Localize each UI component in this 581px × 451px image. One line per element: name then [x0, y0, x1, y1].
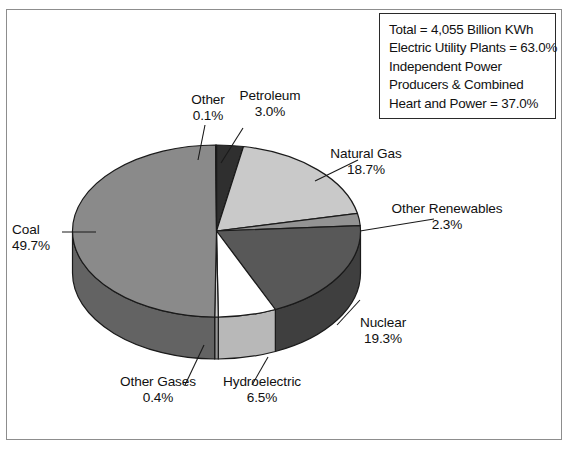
callout-coal-name: Coal	[12, 222, 68, 238]
callout-hydroelectric: Hydroelectric 6.5%	[214, 374, 310, 407]
callout-hydroelectric-name: Hydroelectric	[214, 374, 310, 390]
callout-other-gases-value: 0.4%	[110, 390, 206, 406]
callout-petroleum-name: Petroleum	[230, 88, 310, 104]
callout-hydroelectric-value: 6.5%	[214, 390, 310, 406]
callout-other-value: 0.1%	[178, 108, 238, 124]
legend-line-total: Total = 4,055 Billion KWh	[389, 21, 555, 39]
legend-line-indep: Independent Power	[389, 58, 555, 76]
callout-natural-gas-name: Natural Gas	[312, 146, 420, 162]
legend-line-utility: Electric Utility Plants = 63.0%	[389, 39, 555, 57]
callout-petroleum-value: 3.0%	[230, 104, 310, 120]
callout-other-renewables-value: 2.3%	[372, 217, 522, 233]
callout-coal-value: 49.7%	[12, 238, 68, 254]
callout-natural-gas-value: 18.7%	[312, 162, 420, 178]
callout-other-name: Other	[178, 92, 238, 108]
callout-coal: Coal 49.7%	[12, 222, 68, 255]
summary-legend-box: Total = 4,055 Billion KWh Electric Utili…	[379, 13, 556, 119]
callout-nuclear-name: Nuclear	[344, 315, 422, 331]
callout-natural-gas: Natural Gas 18.7%	[312, 146, 420, 179]
callout-nuclear-value: 19.3%	[344, 331, 422, 347]
chart-canvas: Other 0.1% Petroleum 3.0% Natural Gas 18…	[0, 0, 581, 451]
callout-other-renewables-name: Other Renewables	[372, 201, 522, 217]
callout-other-gases-name: Other Gases	[110, 374, 206, 390]
callout-nuclear: Nuclear 19.3%	[344, 315, 422, 348]
legend-line-heatpower: Heart and Power = 37.0%	[389, 95, 555, 113]
callout-other: Other 0.1%	[178, 92, 238, 125]
legend-line-producers: Producers & Combined	[389, 76, 555, 94]
callout-other-gases: Other Gases 0.4%	[110, 374, 206, 407]
callout-other-renewables: Other Renewables 2.3%	[372, 201, 522, 234]
callout-petroleum: Petroleum 3.0%	[230, 88, 310, 121]
